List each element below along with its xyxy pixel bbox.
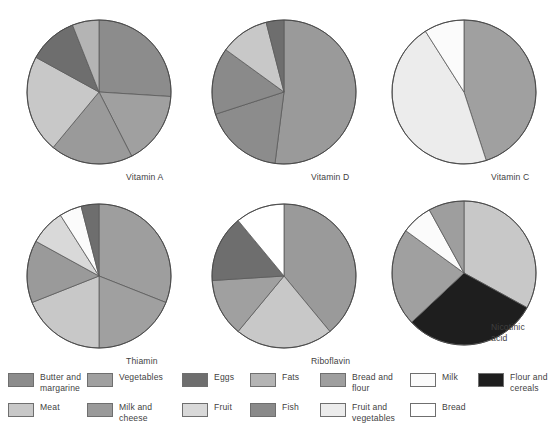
pie-svg-vitamin-c — [373, 4, 550, 176]
legend-swatch-icon-eggs — [182, 373, 208, 387]
pie-chart-vitamin-d: Vitamin D — [193, 4, 376, 188]
pie-slice-vitamin-a-0 — [99, 20, 171, 97]
pie-graphic-riboflavin — [193, 188, 376, 348]
pie-slice-vitamin-d-0 — [275, 20, 356, 164]
legend-swatch-icon-meat — [8, 403, 34, 417]
legend-item-meat: Meat — [8, 402, 60, 417]
legend-label: Flour and cereals — [510, 372, 548, 393]
legend-swatch-icon-milk-and-cheese — [87, 403, 113, 417]
legend-item-butter-and-margarine: Butter and margarine — [8, 372, 81, 393]
legend-label: Bread and flour — [352, 372, 393, 393]
legend-item-bread-and-flour: Bread and flour — [320, 372, 393, 393]
pie-chart-vitamin-a: Vitamin A — [8, 4, 191, 188]
legend-swatch-icon-fats — [250, 373, 276, 387]
pie-graphic-vitamin-d — [193, 4, 376, 164]
legend-swatch-icon-bread-and-flour — [320, 373, 346, 387]
pie-title-nicotinic-acid: Nicotinic acid — [491, 322, 525, 343]
legend-item-bread: Bread — [410, 402, 466, 417]
legend-swatch-icon-fruit-and-vegetables — [320, 403, 346, 417]
legend-item-fruit: Fruit — [182, 402, 232, 417]
legend-item-milk: Milk — [410, 372, 458, 387]
pie-chart-thiamin: Thiamin — [8, 188, 191, 372]
legend-item-flour-and-cereals: Flour and cereals — [478, 372, 548, 393]
legend-item-milk-and-cheese: Milk and cheese — [87, 402, 152, 423]
legend-swatch-icon-fruit — [182, 403, 208, 417]
legend-label: Milk — [442, 372, 458, 383]
legend-swatch-icon-bread — [410, 403, 436, 417]
legend-label: Vegetables — [119, 372, 163, 383]
pie-chart-riboflavin: Riboflavin — [193, 188, 376, 372]
legend-item-eggs: Eggs — [182, 372, 234, 387]
pie-graphic-vitamin-a — [8, 4, 191, 164]
pie-title-vitamin-a: Vitamin A — [126, 172, 164, 183]
legend-swatch-icon-butter-and-margarine — [8, 373, 34, 387]
legend-swatch-icon-vegetables — [87, 373, 113, 387]
pie-svg-vitamin-d — [193, 4, 376, 176]
pie-graphic-vitamin-c — [373, 4, 550, 164]
legend-swatch-icon-fish — [250, 403, 276, 417]
pie-svg-vitamin-a — [8, 4, 191, 176]
pie-graphic-thiamin — [8, 188, 191, 348]
legend-label: Meat — [40, 402, 60, 413]
legend-item-fish: Fish — [250, 402, 299, 417]
pie-chart-nicotinic-acid: Nicotinic acid — [373, 188, 550, 372]
legend-item-fats: Fats — [250, 372, 299, 387]
legend-label: Fruit — [214, 402, 232, 413]
pie-title-vitamin-d: Vitamin D — [311, 172, 349, 183]
legend-label: Fruit and vegetables — [352, 402, 395, 423]
legend-item-fruit-and-vegetables: Fruit and vegetables — [320, 402, 395, 423]
pie-title-thiamin: Thiamin — [126, 356, 158, 367]
chart-legend: Butter and margarineMeatVegetablesMilk a… — [0, 368, 550, 436]
pie-chart-vitamin-c: Vitamin C — [373, 4, 550, 188]
legend-label: Bread — [442, 402, 466, 413]
legend-item-vegetables: Vegetables — [87, 372, 163, 387]
pie-svg-riboflavin — [193, 188, 376, 360]
pie-title-vitamin-c: Vitamin C — [491, 172, 529, 183]
pie-chart-grid: Vitamin AVitamin DVitamin CThiaminRibofl… — [0, 0, 550, 368]
legend-label: Milk and cheese — [119, 402, 152, 423]
legend-swatch-icon-milk — [410, 373, 436, 387]
pie-title-riboflavin: Riboflavin — [311, 356, 350, 367]
legend-label: Eggs — [214, 372, 234, 383]
legend-label: Butter and margarine — [40, 372, 81, 393]
legend-label: Fish — [282, 402, 299, 413]
legend-swatch-icon-flour-and-cereals — [478, 373, 504, 387]
legend-label: Fats — [282, 372, 299, 383]
pie-svg-thiamin — [8, 188, 191, 360]
